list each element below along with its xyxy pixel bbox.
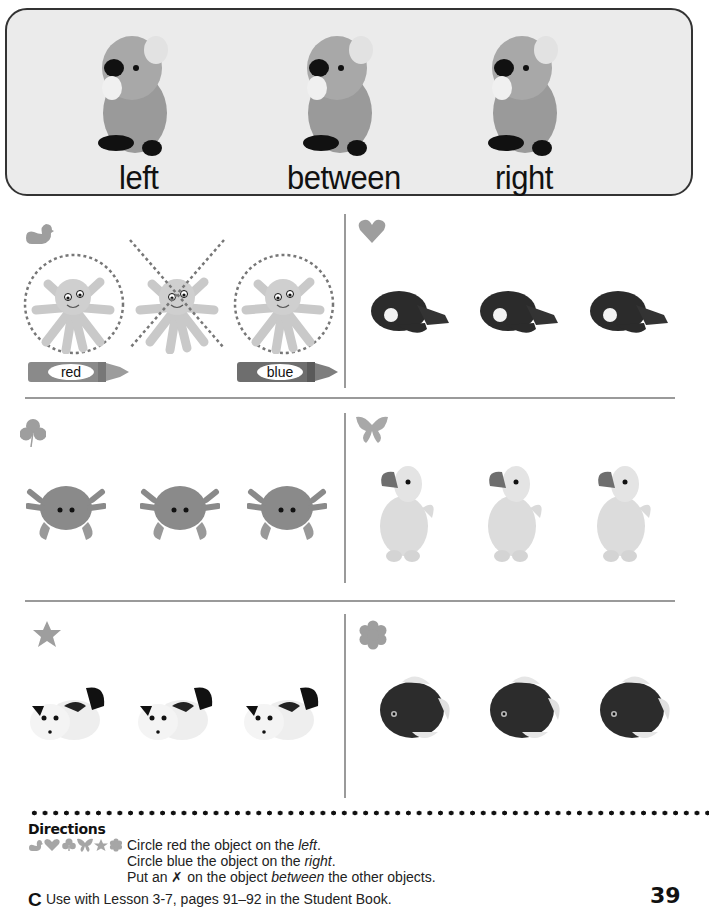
duck-icon: [24, 220, 54, 246]
divider-horizontal-1: [25, 397, 675, 399]
direction-line-2: Circle blue the object on the right.: [127, 853, 336, 869]
duck-plush-left-image[interactable]: [368, 464, 444, 568]
direction-line-3: Put an ✗ on the object between the other…: [127, 869, 436, 885]
duck-plush-between-image[interactable]: [476, 464, 552, 568]
cow-left-image[interactable]: [26, 676, 110, 748]
direction-emphasis: between: [271, 869, 324, 885]
page-number: 39: [650, 883, 681, 908]
crayon-label-blue: blue: [257, 364, 303, 380]
cow-right-image[interactable]: [240, 676, 324, 748]
direction-emphasis: right: [304, 853, 331, 869]
octopus-left-image: [28, 262, 118, 354]
divider-vertical-row1: [344, 214, 346, 388]
fish-right-image[interactable]: [592, 670, 676, 746]
butterfly-icon: [354, 415, 390, 445]
divider-horizontal-2: [25, 600, 675, 602]
direction-text: Put an: [127, 869, 171, 885]
direction-line-1: Circle red the object on the left.: [127, 837, 321, 853]
blue-crayon: blue: [237, 361, 339, 383]
whale-left-image[interactable]: [367, 283, 453, 339]
dotted-separator: [29, 809, 709, 817]
direction-text: the other objects.: [324, 869, 435, 885]
crab-right-image[interactable]: [247, 478, 327, 544]
label-right: right: [495, 159, 553, 198]
divider-vertical-row3: [344, 614, 346, 798]
koala-right-image: [482, 28, 568, 158]
koala-left-image: [92, 28, 178, 158]
crab-left-image[interactable]: [26, 478, 106, 544]
direction-text: .: [317, 837, 321, 853]
heart-icon: [358, 218, 386, 244]
footer-note: Use with Lesson 3-7, pages 91–92 in the …: [46, 891, 392, 907]
example-x-mark: [128, 238, 226, 350]
flower-icon: [359, 620, 387, 650]
direction-text: Circle red the object on the: [127, 837, 298, 853]
red-crayon: red: [28, 361, 130, 383]
club-icon: [20, 418, 46, 448]
direction-emphasis: left: [298, 837, 317, 853]
whale-between-image[interactable]: [476, 283, 562, 339]
divider-vertical-row2: [344, 413, 346, 583]
cow-between-image[interactable]: [134, 676, 218, 748]
star-icon: [32, 620, 62, 648]
x-mark-glyph: ✗: [171, 869, 183, 885]
duck-plush-right-image[interactable]: [585, 464, 661, 568]
crab-between-image[interactable]: [140, 478, 220, 544]
octopus-right-image: [238, 262, 328, 354]
direction-text: Circle blue the object on the: [127, 853, 304, 869]
fish-left-image[interactable]: [372, 670, 456, 746]
directions-symbols-icon: [28, 838, 122, 852]
whale-right-image[interactable]: [586, 283, 672, 339]
crayon-label-red: red: [48, 364, 94, 380]
label-left: left: [119, 159, 158, 198]
publisher-logo-icon: C: [28, 889, 42, 911]
directions-title: Directions: [28, 821, 106, 837]
header-banner: left between right: [5, 8, 693, 196]
direction-text: .: [332, 853, 336, 869]
label-between: between: [287, 159, 401, 198]
direction-text: on the object: [183, 869, 271, 885]
koala-between-image: [297, 28, 383, 158]
fish-between-image[interactable]: [482, 670, 566, 746]
